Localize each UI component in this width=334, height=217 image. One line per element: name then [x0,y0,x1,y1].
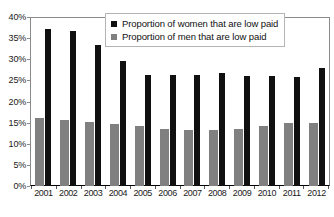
y-axis-tick-label: 10% [9,139,26,149]
bar-men [110,124,119,186]
y-axis-tick-label: 20% [9,97,26,107]
bar-men [160,129,169,186]
legend-label-women: Proportion of women that are low paid [122,18,278,29]
bar-women [219,73,225,186]
x-axis-tick-label: 2001 [31,188,56,208]
legend-swatch-women-icon [111,21,117,27]
bar-women [269,76,275,186]
y-axis-tick-mark [27,186,30,187]
bar-group [31,18,56,186]
bar-women [145,75,151,186]
bar-men [284,123,293,186]
bar-women [194,75,200,186]
bar-men [234,129,243,186]
y-axis-tick-label: 40% [9,12,26,22]
bar-men [135,126,144,186]
x-axis-tick-label: 2006 [155,188,180,208]
bar-women [45,29,51,187]
bar-women [120,61,126,186]
x-axis-tick-label: 2002 [56,188,81,208]
bar-men [184,130,193,186]
bar-group [56,18,81,186]
y-axis-tick-label: 25% [9,75,26,85]
bar-men [259,126,268,186]
bar-men [60,120,69,186]
y-axis: 40%35%30%25%20%15%10%5%0% [0,17,30,186]
legend-swatch-men-icon [111,34,117,40]
bar-men [309,123,318,186]
x-axis-tick-label: 2008 [205,188,230,208]
bar-women [294,77,300,186]
y-axis-tick-label: 35% [9,33,26,43]
x-axis-tick-label: 2010 [254,188,279,208]
bar-women [170,75,176,186]
legend-item-men: Proportion of men that are low paid [111,30,278,43]
x-axis-tick-label: 2012 [304,188,329,208]
bar-women [244,76,250,186]
x-axis: 2001200220032004200520062007200820092010… [31,188,329,208]
x-axis-tick-label: 2003 [81,188,106,208]
bar-men [209,130,218,186]
y-axis-tick-label: 0% [13,181,26,191]
bar-men [35,118,44,186]
x-axis-tick-label: 2004 [105,188,130,208]
y-axis-tick-label: 5% [13,160,26,170]
y-axis-tick-label: 30% [9,54,26,64]
bar-women [95,45,101,186]
bar-chart: 40%35%30%25%20%15%10%5%0% 20012002200320… [0,0,334,217]
bar-group [304,18,329,186]
x-axis-tick-label: 2005 [130,188,155,208]
y-axis-tick-label: 15% [9,118,26,128]
x-axis-tick-label: 2011 [279,188,304,208]
bar-women [319,68,325,186]
bar-men [85,122,94,186]
bar-women [70,31,76,186]
chart-legend: Proportion of women that are low paid Pr… [105,13,285,47]
x-axis-tick-label: 2009 [230,188,255,208]
legend-label-men: Proportion of men that are low paid [122,31,266,42]
legend-item-women: Proportion of women that are low paid [111,17,278,30]
bar-group [81,18,106,186]
x-axis-tick-label: 2007 [180,188,205,208]
